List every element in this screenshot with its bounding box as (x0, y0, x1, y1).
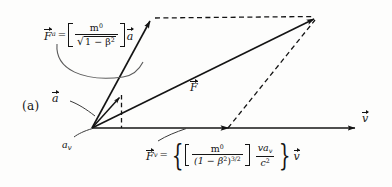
fa-multiplier-symbol: a (127, 31, 134, 42)
fv-multiplier-symbol: v (294, 151, 300, 162)
F-symbol: F (190, 82, 198, 93)
radical-sign-icon: √ (77, 36, 84, 47)
fv-numerator-m: m (211, 143, 220, 154)
fv-velocity-fraction: vav c2 (253, 143, 278, 167)
F-vector-glyph: F (190, 79, 198, 93)
a-label-leader (70, 101, 95, 116)
fv-denominator-power: 3/2 (231, 155, 241, 162)
fv-second-numerator-a-subscript: v (269, 147, 273, 155)
a-vector-glyph: a (52, 90, 59, 104)
fv-multiplier-vector: v (294, 148, 300, 162)
fv-bracket-group: m0 (1 − β2)3/2 (185, 144, 250, 166)
av-label-leader (74, 129, 93, 138)
fv-lhs-symbol: F (146, 151, 154, 162)
fv-second-numerator: vav (256, 143, 275, 156)
fv-brace-open: { (172, 144, 184, 167)
fv-equals-sign: = (159, 150, 167, 160)
acceleration-vector-label: a (52, 90, 59, 104)
fv-formula: Fv = { m0 (1 − β2)3/2 vav c2 } v (146, 143, 300, 167)
av-component-label: av (62, 139, 72, 152)
fv-brace-close: } (279, 144, 291, 167)
v-symbol: v (362, 113, 368, 124)
fa-numerator-exponent: 0 (99, 22, 103, 29)
fv-second-denominator: c2 (258, 157, 271, 168)
fa-fraction: m0 √1 − β2 (72, 23, 121, 47)
v-vector-glyph: v (362, 110, 368, 124)
parallelogram-top-dashed (155, 17, 314, 19)
fv-numerator: m0 (209, 144, 226, 155)
fv-lhs-vector: F (146, 148, 154, 162)
fa-formula-leader-curve (57, 44, 143, 78)
a-symbol: a (52, 93, 59, 104)
fv-lhs-subscript: v (154, 152, 158, 159)
fa-numerator: m0 (88, 23, 105, 34)
panel-label: (a) (22, 100, 39, 112)
fa-radical: √1 − β2 (77, 36, 116, 47)
fa-radicand-text: 1 − β (85, 36, 111, 47)
fa-denominator: √1 − β2 (75, 35, 118, 47)
resultant-force-label: F (190, 79, 198, 93)
av-subscript: v (68, 143, 72, 152)
fa-lhs-vector: F (44, 28, 52, 42)
fv-numerator-exponent: 0 (220, 143, 224, 150)
parallelogram-right-dashed (228, 20, 315, 128)
fv-denominator: (1 − β2)3/2 (192, 155, 243, 166)
fa-equals-sign: = (58, 30, 66, 40)
fv-denominator-text: (1 − β (194, 156, 223, 167)
fa-radicand: 1 − β2 (84, 36, 116, 47)
fa-bracket-group: m0 √1 − β2 (68, 23, 125, 47)
force-parallelogram-figure: (a) a F v av Fa = m0 √1 − β2 a Fv (0, 0, 392, 187)
fa-numerator-m: m (90, 22, 99, 33)
fv-mass-fraction: m0 (1 − β2)3/2 (189, 144, 246, 166)
fa-lhs-subscript: a (52, 31, 56, 38)
fa-radicand-exponent: 2 (111, 36, 115, 43)
fa-lhs-symbol: F (44, 31, 52, 42)
fv-second-denominator-exponent: 2 (266, 157, 270, 164)
fa-multiplier-vector: a (127, 28, 134, 42)
fa-formula: Fa = m0 √1 − β2 a (44, 23, 133, 47)
velocity-axis-label: v (362, 110, 368, 124)
